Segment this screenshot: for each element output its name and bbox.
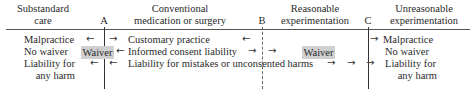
arrow-right-icon: → <box>109 33 117 45</box>
header-line: care <box>8 15 78 27</box>
right-liability-for: Liability for <box>385 58 436 70</box>
right-any-harm: any harm <box>385 70 437 82</box>
right-no-waiver: No waiver <box>385 46 429 58</box>
arrow-right-icon: → <box>248 45 256 57</box>
left-liability-for: Liability for <box>24 58 75 70</box>
header-line: experimentation <box>275 15 355 27</box>
arrow-right-icon: → <box>327 57 335 69</box>
header-reasonable: Reasonable experimentation <box>275 3 355 27</box>
header-line: Reasonable <box>275 3 355 15</box>
header-line: experimentation <box>378 15 470 27</box>
arrow-right-icon: → <box>366 57 374 69</box>
arrow-right-icon: → <box>370 33 378 45</box>
header-substandard-care: Substandard care <box>8 3 78 27</box>
header-line: Conventional <box>125 3 235 15</box>
arrow-left-icon: ← <box>90 57 98 69</box>
label-C: C <box>362 15 374 27</box>
header-line: medication or surgery <box>125 15 235 27</box>
arrow-left-icon: ← <box>242 33 250 45</box>
left-any-harm: any harm <box>24 70 75 82</box>
arrow-left-icon: ← <box>109 57 117 69</box>
header-line: Unreasonable <box>378 3 470 15</box>
customary-practice: Customary practice <box>128 34 210 46</box>
informed-consent-liability: Informed consent liability <box>128 46 237 58</box>
arrow-left-icon: ← <box>86 33 94 45</box>
arrow-left-icon: ← <box>116 45 124 57</box>
right-malpractice: Malpractice <box>383 34 433 46</box>
header-divider <box>6 29 470 30</box>
liability-mistakes: Liability for mistakes or unconsented ha… <box>128 58 313 70</box>
label-B: B <box>256 15 268 27</box>
label-A: A <box>98 15 110 27</box>
arrow-right-icon: → <box>347 57 355 69</box>
left-no-waiver: No waiver <box>24 46 68 58</box>
header-conventional: Conventional medication or surgery <box>125 3 235 27</box>
header-line: Substandard <box>8 3 78 15</box>
header-unreasonable: Unreasonable experimentation <box>378 3 470 27</box>
arrow-right-icon: → <box>268 45 276 57</box>
left-malpractice: Malpractice <box>24 34 74 46</box>
